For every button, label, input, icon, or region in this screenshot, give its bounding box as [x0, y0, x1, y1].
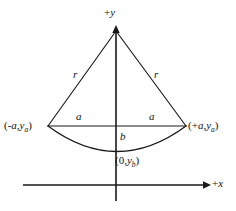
arc-bottom-subscript: b	[132, 160, 136, 169]
y-axis-label-var: y	[110, 6, 115, 18]
y-axis	[112, 25, 119, 201]
left-vertex-close-paren: )	[28, 119, 32, 131]
radius-left-line	[48, 31, 116, 126]
y-axis-label: +y	[104, 7, 115, 18]
geometry-figure: +y +x r r a a b (-a,ya) (+a,ya) (0,yb)	[0, 0, 236, 211]
half-chord-left-label: a	[76, 111, 82, 122]
arc-bottom-close-paren: )	[136, 154, 140, 166]
right-vertex-close-paren: )	[215, 119, 219, 131]
right-vertex-point-label: (+a,ya)	[188, 120, 218, 131]
arc-bottom-point-label: (0,yb)	[115, 155, 139, 166]
x-axis-label-var: x	[218, 177, 223, 189]
arc-path	[48, 126, 186, 152]
x-axis-label: +x	[212, 178, 223, 189]
geometry-canvas	[0, 0, 236, 211]
left-vertex-point-label: (-a,ya)	[4, 120, 32, 131]
right-vertex-subscript: a	[211, 125, 215, 134]
half-chord-right-label: a	[149, 111, 155, 122]
sagitta-label: b	[120, 131, 126, 142]
x-axis	[23, 181, 211, 189]
radius-left-label: r	[73, 69, 77, 80]
x-axis-arrowhead	[203, 181, 211, 189]
radius-right-label: r	[154, 69, 158, 80]
left-vertex-subscript: a	[24, 125, 28, 134]
